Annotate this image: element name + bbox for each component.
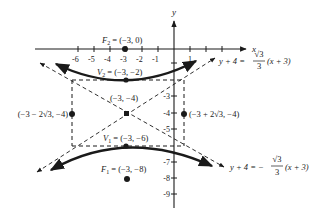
asymptote-upper-equation: y + 4 = √3 3 (x + 3) — [218, 49, 291, 71]
y-tick-label: -9 — [163, 190, 170, 199]
right-endpoint-point — [181, 111, 187, 117]
svg-text:3: 3 — [257, 61, 261, 71]
svg-text:√3: √3 — [255, 49, 264, 59]
vertex-v2-point — [123, 77, 128, 82]
v2-label: V2 = (−3, −2) — [97, 67, 142, 78]
right-endpoint-label: (−3 + 2√3, −4) — [189, 109, 239, 119]
asymptote-lower-equation: y + 4 = − √3 3 (x + 3) — [229, 154, 309, 177]
vertex-v1-point — [123, 143, 128, 148]
y-tick-label: -3 — [163, 92, 170, 101]
svg-text:y + 4 = −: y + 4 = − — [229, 162, 264, 172]
left-endpoint-point — [69, 111, 75, 117]
x-tick-label: -6 — [72, 55, 79, 64]
diagram-canvas: x -6 -5 -4 -3 -2 -1 1 y -3 -4 -5 -7 — [0, 0, 318, 212]
hyperbola-diagram: x -6 -5 -4 -3 -2 -1 1 y -3 -4 -5 -7 — [0, 0, 318, 212]
svg-text:√3: √3 — [273, 154, 282, 164]
x-tick-label: -1 — [152, 55, 159, 64]
center-point — [124, 111, 129, 116]
left-endpoint-label: (−3 − 2√3, −4) — [18, 109, 68, 119]
y-tick-label: -4 — [163, 109, 170, 118]
v1-label: V1 = (−3, −6) — [103, 133, 148, 144]
focus-f1-point — [124, 176, 130, 182]
svg-text:3: 3 — [275, 167, 279, 177]
y-axis-label: y — [171, 7, 176, 17]
y-tick-label: -7 — [163, 158, 170, 167]
x-tick-label: -2 — [136, 55, 143, 64]
hyperbola-branches — [51, 61, 212, 170]
y-tick-label: -8 — [163, 174, 170, 183]
x-tick-label: -5 — [88, 55, 95, 64]
svg-text:y + 4 =: y + 4 = — [218, 56, 245, 66]
focus-f2-point — [122, 46, 128, 52]
x-tick-label: -4 — [104, 55, 111, 64]
svg-text:(x + 3): (x + 3) — [267, 56, 291, 66]
y-tick-label: -5 — [163, 125, 170, 134]
f2-label: F2 = (−3, 0) — [101, 35, 143, 46]
y-axis: y -3 -4 -5 -7 -8 -9 — [163, 7, 177, 208]
center-label: (−3, −4) — [110, 93, 138, 103]
x-tick-label: -3 — [120, 55, 127, 64]
f1-label: F1 = (−3, −8) — [100, 164, 146, 175]
svg-text:(x + 3): (x + 3) — [285, 162, 309, 172]
